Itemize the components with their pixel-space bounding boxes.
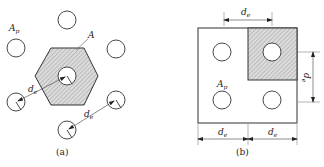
label-de-top: de [241, 7, 251, 18]
caption-a: (a) [56, 147, 68, 157]
hole-upper-right [107, 40, 125, 58]
hole-top-left [213, 43, 231, 61]
label-de-a1: de [28, 84, 38, 95]
hole-bottom-left [213, 91, 231, 109]
label-de-a2: de [84, 109, 94, 120]
hole-bottom-right [263, 91, 281, 109]
hole-top [58, 11, 76, 29]
hole-top-right [263, 43, 281, 61]
panel-b: de de Ap de de (b) [198, 7, 320, 157]
label-de-bottom-left: de [218, 127, 228, 138]
hole-upper-left [7, 39, 25, 57]
label-A: A [87, 30, 95, 40]
figure: Ap A de de (a) de de Ap de d [0, 0, 324, 167]
label-de-right: de [301, 73, 312, 83]
label-de-bottom-right: de [268, 127, 278, 138]
panel-a: Ap A de de (a) [7, 11, 125, 157]
label-Ap-a: Ap [8, 23, 20, 35]
caption-b: (b) [236, 147, 249, 157]
